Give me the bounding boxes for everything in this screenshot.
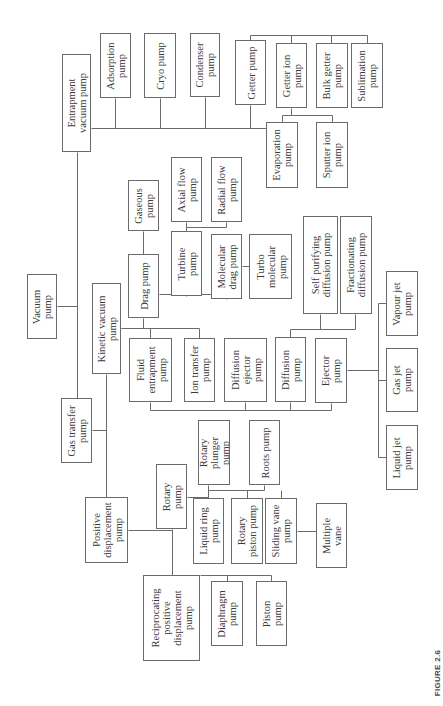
node-label: Sliding vane pump: [270, 505, 292, 558]
node-ejector: Ejector pump: [315, 338, 347, 403]
node-label: Adsorption pump: [105, 42, 127, 89]
node-positive-displacement: Positive displacement pump: [85, 497, 128, 563]
node-fluid-entrapment: Fluid entrapment pump: [129, 338, 172, 402]
node-label: Turbo molecular pump: [254, 246, 287, 288]
node-label: Ion transfer pump: [189, 346, 211, 395]
node-condenser: Condenser pump: [190, 33, 220, 97]
node-label: Kinetic vacuum pump: [96, 295, 118, 362]
node-vacuum: Vacuum pump: [27, 274, 57, 339]
node-label: Rotary piston pump: [236, 505, 258, 557]
node-label: Self purifying diffusion pump: [310, 233, 332, 297]
node-label: Fractionating diffusion pump: [345, 233, 367, 297]
node-label: Radial flow pump: [216, 165, 238, 214]
node-drag: Drag pump: [128, 254, 159, 318]
node-label: Rotary pump: [161, 482, 183, 511]
node-label: Diffusion pump: [280, 349, 302, 389]
node-label: Liquid ring pump: [198, 507, 220, 555]
node-label: Gaseous pump: [133, 188, 155, 224]
node-label: Condenser pump: [194, 43, 216, 88]
node-label: Diaphragm pump: [216, 590, 238, 637]
node-multiple-vane: Multiple vane: [316, 503, 347, 568]
node-reciprocating: Reciprocating positive displacement pump: [143, 575, 200, 661]
node-turbo-molecular: Turbo molecular pump: [249, 234, 292, 299]
node-label: Positive displacement pump: [90, 502, 123, 557]
node-evaporation: Evaporation pump: [266, 122, 298, 188]
node-label: Drag pump: [138, 262, 149, 310]
node-label: Roots pump: [259, 427, 270, 478]
node-adsorption: Adsorption pump: [100, 33, 131, 98]
node-label: Axial flow pump: [176, 167, 198, 212]
node-label: Turbine pump: [176, 247, 198, 280]
node-label: Liquid jet pump: [391, 437, 413, 478]
node-gas-transfer: Gas transfer pump: [61, 398, 92, 463]
node-label: Ejector pump: [320, 355, 342, 385]
figure-caption: FIGURE 2.6: [432, 645, 442, 701]
node-radial-flow: Radial flow pump: [211, 157, 242, 222]
node-gaseous: Gaseous pump: [128, 180, 159, 231]
node-kinetic: Kinetic vacuum pump: [92, 283, 121, 374]
node-label: Multiple vane: [321, 517, 343, 553]
node-fractionating: Fractionating diffusion pump: [340, 216, 372, 314]
node-rotary-plunger: Rotary plunger pump: [198, 420, 230, 485]
node-entrapment: Entrapment vacuum pump: [62, 54, 91, 152]
node-rotary-piston: Rotary piston pump: [231, 498, 263, 564]
node-vapour-jet: Vapour jet pump: [386, 271, 418, 336]
node-label: Evaporation pump: [271, 129, 293, 180]
node-diffusion: Diffusion pump: [275, 337, 306, 402]
node-molecular-drag: Molecular drag pump: [211, 234, 242, 299]
figure-caption-text: FIGURE 2.6: [433, 650, 442, 697]
node-getter: Getter pump: [235, 40, 266, 105]
node-axial-flow: Axial flow pump: [171, 157, 202, 222]
node-liquid-jet: Liquid jet pump: [386, 425, 418, 490]
node-label: Gas jet pump: [391, 365, 413, 394]
node-label: Gas transfer pump: [66, 405, 88, 456]
node-self-purifying: Self purifying diffusion pump: [303, 216, 338, 314]
node-label: Vapour jet pump: [391, 282, 413, 325]
node-diffusion-ejector: Diffusion ejector pump: [224, 338, 267, 402]
node-turbine: Turbine pump: [171, 231, 202, 296]
node-sublimation: Sublimation pump: [351, 43, 383, 108]
node-label: Sputter ion pump: [321, 132, 343, 178]
node-label: Bulk getter pump: [321, 52, 343, 99]
node-piston: Piston pump: [256, 581, 287, 646]
node-label: Fluid entrapment pump: [134, 346, 167, 393]
node-bulk-getter: Bulk getter pump: [316, 43, 348, 108]
node-label: Vacuum pump: [31, 289, 53, 323]
node-cryo: Cryo pump: [144, 33, 176, 98]
node-label: Entrapment vacuum pump: [66, 73, 88, 133]
node-label: Getter ion pump: [281, 54, 303, 96]
node-label: Piston pump: [261, 600, 283, 626]
node-label: Reciprocating positive displacement pump: [150, 589, 194, 648]
node-roots: Roots pump: [249, 420, 280, 485]
node-diaphragm: Diaphragm pump: [211, 581, 243, 646]
node-label: Diffusion ejector pump: [229, 350, 262, 390]
node-label: Molecular drag pump: [216, 244, 238, 289]
node-liquid-ring: Liquid ring pump: [193, 498, 224, 564]
node-label: Getter pump: [245, 46, 256, 99]
node-sputter-ion: Sputter ion pump: [316, 122, 348, 188]
node-ion-transfer: Ion transfer pump: [184, 338, 215, 402]
node-sliding-vane: Sliding vane pump: [265, 498, 297, 564]
node-gas-jet: Gas jet pump: [386, 348, 418, 412]
node-rotary: Rotary pump: [156, 464, 187, 529]
node-getter-ion: Getter ion pump: [276, 43, 307, 108]
node-label: Rotary plunger pump: [198, 436, 230, 468]
node-label: Cryo pump: [155, 42, 166, 90]
node-label: Sublimation pump: [356, 50, 378, 101]
pump-classification-diagram: Vacuum pumpEntrapment vacuum pumpAdsorpt…: [0, 0, 443, 706]
